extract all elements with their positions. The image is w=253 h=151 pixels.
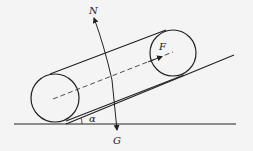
angle-arc	[81, 118, 82, 124]
cylinder-bottom-edge	[66, 75, 184, 121]
label-g: G	[113, 135, 121, 146]
physics-diagram: N F G α	[0, 0, 253, 151]
cylinder-top-edge	[50, 30, 166, 74]
cylinder-right-end	[150, 30, 196, 76]
normal-force-line	[94, 18, 112, 80]
label-alpha: α	[89, 113, 96, 124]
label-f: F	[158, 41, 167, 52]
label-n: N	[88, 5, 99, 16]
